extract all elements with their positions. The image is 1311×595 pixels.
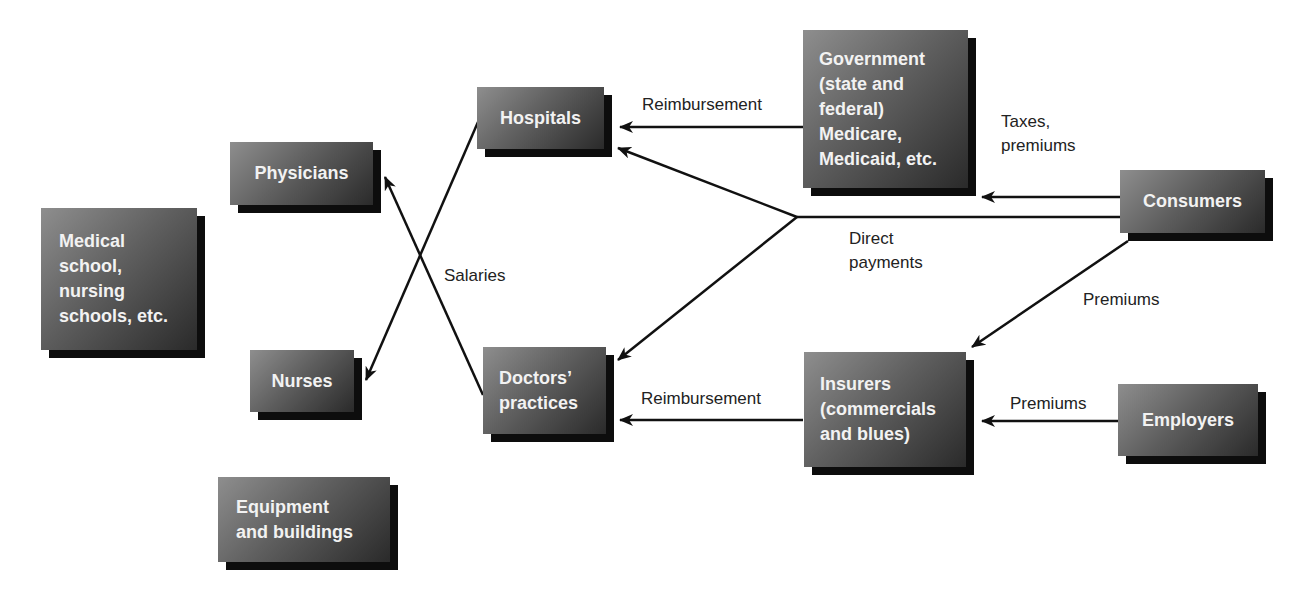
label-premiums-consumers: Premiums	[1083, 288, 1160, 312]
healthcare-payment-flow-diagram: Medical school, nursing schools, etc. Ph…	[0, 0, 1311, 595]
node-insurers: Insurers (commercials and blues)	[804, 352, 966, 467]
arrow-hospitals-to-nurses	[366, 122, 478, 380]
node-label: Doctors’ practices	[499, 366, 578, 416]
node-nurses: Nurses	[250, 350, 354, 412]
node-label: Equipment and buildings	[236, 495, 353, 545]
node-doctors-practices: Doctors’ practices	[483, 347, 606, 434]
node-physicians: Physicians	[230, 142, 373, 205]
node-label: Hospitals	[500, 106, 581, 131]
box-face: Equipment and buildings	[218, 477, 390, 562]
box-face: Employers	[1118, 384, 1258, 456]
arrow-direct-to-hospitals	[618, 148, 797, 217]
node-label: Nurses	[271, 369, 332, 394]
node-equipment-buildings: Equipment and buildings	[218, 477, 390, 562]
node-employers: Employers	[1118, 384, 1258, 456]
box-face: Doctors’ practices	[483, 347, 606, 434]
node-label: Government (state and federal) Medicare,…	[819, 47, 937, 172]
label-reimbursement-insurers: Reimbursement	[641, 387, 761, 411]
box-face: Medical school, nursing schools, etc.	[41, 208, 197, 350]
box-face: Physicians	[230, 142, 373, 205]
box-face: Government (state and federal) Medicare,…	[803, 30, 968, 188]
label-premiums-employers: Premiums	[1010, 392, 1087, 416]
label-reimbursement-government: Reimbursement	[642, 93, 762, 117]
node-consumers: Consumers	[1120, 170, 1265, 233]
box-face: Consumers	[1120, 170, 1265, 233]
box-face: Nurses	[250, 350, 354, 412]
node-government: Government (state and federal) Medicare,…	[803, 30, 968, 188]
box-face: Hospitals	[477, 87, 604, 149]
node-label: Insurers (commercials and blues)	[820, 372, 936, 447]
node-label: Physicians	[254, 161, 348, 186]
label-direct-payments: Direct payments	[849, 227, 923, 275]
label-taxes-premiums: Taxes, premiums	[1001, 110, 1076, 158]
arrow-direct-to-doctors	[618, 217, 797, 360]
node-medical-schools: Medical school, nursing schools, etc.	[41, 208, 197, 350]
box-face: Insurers (commercials and blues)	[804, 352, 966, 467]
node-label: Consumers	[1143, 189, 1242, 214]
node-hospitals: Hospitals	[477, 87, 604, 149]
node-label: Employers	[1142, 408, 1234, 433]
node-label: Medical school, nursing schools, etc.	[59, 229, 168, 329]
label-salaries: Salaries	[444, 264, 505, 288]
